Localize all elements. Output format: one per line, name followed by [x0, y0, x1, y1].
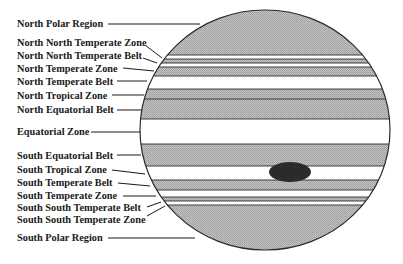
- leader-line: [145, 45, 162, 58]
- label-text: South South Temperate Belt: [17, 202, 141, 213]
- label-text: South Temperate Zone: [17, 190, 118, 201]
- label-text: North Tropical Zone: [17, 90, 108, 101]
- band-north-polar-region: [138, 10, 392, 55]
- band-north-equatorial-belt: [138, 89, 392, 99]
- leader-line: [147, 206, 165, 216]
- leader-line: [123, 68, 154, 71]
- label-north-tropical-zone: North Tropical Zone: [17, 90, 144, 101]
- label-north-temperate-zone: North Temperate Zone: [17, 63, 154, 74]
- label-equatorial-zone: Equatorial Zone: [17, 126, 140, 137]
- label-north-polar-region: North Polar Region: [17, 18, 200, 29]
- band-north-north-temperate-zone: [138, 55, 392, 59]
- jupiter-belts-diagram: North Polar RegionNorth North Temperate …: [0, 0, 403, 264]
- label-text: South Polar Region: [17, 232, 103, 243]
- label-text: South Equatorial Belt: [17, 150, 114, 161]
- label-south-equatorial-belt: South Equatorial Belt: [17, 150, 141, 161]
- band-south-south-temperate-belt: [138, 197, 392, 201]
- label-text: South Temperate Belt: [17, 177, 113, 188]
- label-south-south-temperate-belt: South South Temperate Belt: [17, 202, 161, 213]
- band-north-temperate-zone: [138, 63, 392, 67]
- leader-line: [118, 183, 150, 186]
- band-south-polar-region: [138, 205, 392, 250]
- leader-line: [143, 58, 157, 63]
- label-north-north-temperate-belt: North North Temperate Belt: [17, 50, 157, 63]
- leader-line: [112, 170, 145, 174]
- band-south-south-temperate-zone: [138, 201, 392, 205]
- band-north-north-temperate-belt: [138, 59, 392, 63]
- label-text: North Polar Region: [17, 18, 103, 29]
- planet-disk: [138, 10, 392, 250]
- band-south-temperate-zone: [138, 190, 392, 197]
- label-south-tropical-zone: South Tropical Zone: [17, 164, 145, 175]
- label-north-temperate-belt: North Temperate Belt: [17, 76, 147, 87]
- band-south-temperate-belt: [138, 180, 392, 190]
- leader-line: [147, 202, 161, 207]
- band-south-tropical-zone: [138, 166, 392, 180]
- label-text: North Equatorial Belt: [17, 104, 114, 115]
- label-text: South Tropical Zone: [17, 164, 107, 175]
- band-south-equatorial-belt: [138, 144, 392, 166]
- label-north-equatorial-belt: North Equatorial Belt: [17, 104, 142, 115]
- band-north-tropical-zone: [138, 76, 392, 89]
- band-north-equatorial-belt-lower: [138, 99, 392, 119]
- band-north-temperate-belt: [138, 67, 392, 76]
- label-south-temperate-zone: South Temperate Zone: [17, 190, 156, 201]
- great-red-spot: [269, 162, 311, 182]
- label-text: North North Temperate Belt: [17, 50, 143, 61]
- label-south-polar-region: South Polar Region: [17, 232, 195, 243]
- label-text: North Temperate Zone: [17, 63, 118, 74]
- label-south-temperate-belt: South Temperate Belt: [17, 177, 150, 188]
- label-text: Equatorial Zone: [17, 126, 90, 137]
- label-text: North North Temperate Zone: [17, 37, 147, 48]
- label-text: North Temperate Belt: [17, 76, 114, 87]
- band-equatorial-zone: [138, 119, 392, 144]
- label-text: South South Temperate Zone: [17, 214, 146, 225]
